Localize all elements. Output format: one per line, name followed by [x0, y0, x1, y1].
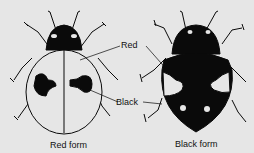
caption-black-form: Black form — [175, 139, 218, 149]
ladybird-diagram — [0, 0, 254, 153]
label-black: Black — [116, 97, 138, 107]
caption-red-form: Red form — [50, 140, 87, 150]
label-red: Red — [121, 40, 138, 50]
red-form-beetle — [10, 11, 118, 134]
black-form-beetle — [140, 11, 246, 132]
